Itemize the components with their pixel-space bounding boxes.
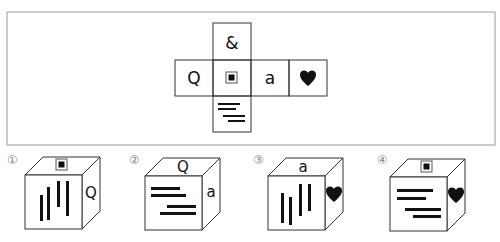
option-number: ②: [129, 153, 140, 167]
letter-a-symbol: a: [298, 158, 307, 176]
letter-q-symbol: Q: [85, 184, 97, 202]
letter-q-symbol: Q: [177, 158, 189, 176]
option-number: ①: [7, 153, 18, 167]
option-1-cube[interactable]: ① Q: [7, 153, 100, 229]
option-4-cube[interactable]: ④: [377, 153, 465, 231]
net-face-bottom: [213, 96, 251, 132]
letter-a-symbol: a: [265, 68, 275, 88]
cube-front-face: [145, 176, 202, 230]
option-3-cube[interactable]: ③ a: [253, 153, 343, 230]
cube-front-face: [268, 176, 325, 230]
cube-front-face: [25, 175, 82, 229]
cube-net-puzzle: & Q a ① Q ② Q: [0, 0, 500, 242]
option-number: ④: [377, 153, 388, 167]
option-number: ③: [253, 153, 264, 167]
letter-q-symbol: Q: [187, 68, 200, 88]
option-2-cube[interactable]: ② Q a: [129, 153, 220, 230]
letter-a-symbol: a: [206, 183, 215, 201]
horizontal-lines-icon: [218, 103, 245, 122]
heart-icon: [300, 71, 316, 87]
square-in-square-icon: [226, 72, 237, 83]
ampersand-symbol: &: [225, 33, 238, 53]
cube-front-face: [390, 177, 447, 231]
